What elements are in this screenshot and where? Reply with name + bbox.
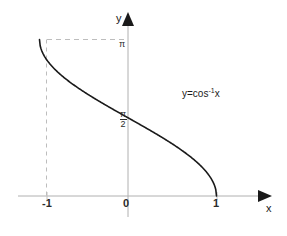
y-axis-label: y [116,13,122,24]
x-tick-label-neg1: -1 [42,198,52,209]
x-tick-label-zero: 0 [123,198,129,209]
function-annotation-base: y=cos [182,88,208,99]
y-tick-label-pi: π [119,40,125,49]
x-tick-label-one: 1 [213,198,219,209]
y-tick-label-pi-over-2: π 2 [118,110,128,130]
y-tick-pi-over-2-denominator: 2 [118,120,128,129]
figure-arccos-plot: y x -1 0 1 π π 2 y=cos-1x [0,0,287,236]
y-axis-arrow-icon [122,12,134,26]
function-annotation: y=cos-1x [182,89,220,99]
x-axis-arrow-icon [258,190,272,202]
y-tick-pi-over-2-numerator: π [118,110,128,119]
function-annotation-variable: x [215,88,220,99]
x-axis-label: x [266,203,272,214]
